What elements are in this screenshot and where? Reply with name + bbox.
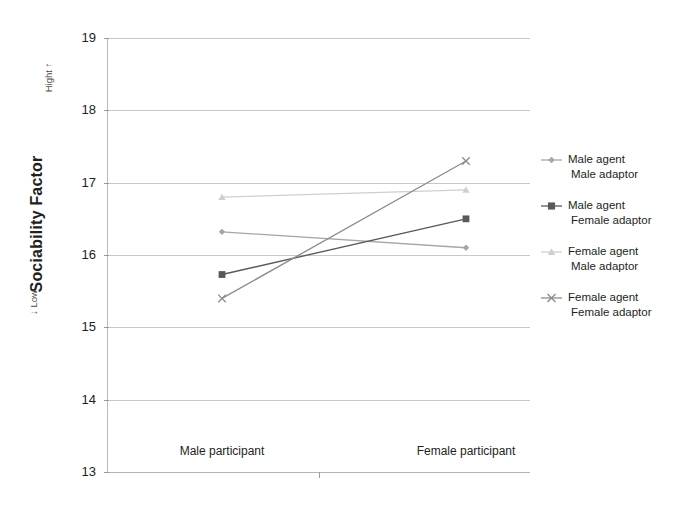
marker-square xyxy=(548,202,555,209)
series-line-3 xyxy=(222,161,466,298)
series-layer xyxy=(108,38,530,472)
legend-item-0[interactable]: Male agentMale adaptor xyxy=(540,152,688,181)
x-axis-label-male: Male participant xyxy=(152,444,292,458)
marker-diamond xyxy=(548,157,555,164)
y-axis-high-annotation: Hight ↑ xyxy=(43,43,54,113)
legend-item-2[interactable]: Female agentMale adaptor xyxy=(540,244,688,273)
series-line-2 xyxy=(222,190,466,197)
legend-marker-cross-icon xyxy=(540,292,566,304)
marker-square xyxy=(219,271,226,278)
legend-marker-diamond-icon xyxy=(540,154,566,166)
y-tick-13 xyxy=(104,472,109,473)
legend-marker-square-icon xyxy=(540,200,566,212)
x-axis-center-tick xyxy=(319,472,320,478)
legend-label-line2: Male adaptor xyxy=(568,167,688,182)
series-line-1 xyxy=(222,219,466,275)
legend-label-line2: Female adaptor xyxy=(568,213,688,228)
y-tick-label-19: 19 xyxy=(56,30,96,45)
legend-label-line1: Male agent xyxy=(568,198,688,213)
legend-item-3[interactable]: Female agentFemale adaptor xyxy=(540,290,688,319)
legend-label-line1: Female agent xyxy=(568,244,688,259)
plot-area xyxy=(108,38,530,472)
y-tick-label-15: 15 xyxy=(56,319,96,334)
y-tick-label-17: 17 xyxy=(56,175,96,190)
x-axis-label-female: Female participant xyxy=(396,444,536,458)
legend-item-1[interactable]: Male agentFemale adaptor xyxy=(540,198,688,227)
y-tick-label-16: 16 xyxy=(56,247,96,262)
y-tick-label-18: 18 xyxy=(56,102,96,117)
y-axis-low-annotation: ↓ Low xyxy=(28,268,39,338)
y-tick-label-13: 13 xyxy=(56,464,96,479)
legend-label-line1: Male agent xyxy=(568,152,688,167)
legend-label-line2: Male adaptor xyxy=(568,259,688,274)
legend-marker-triangle-icon xyxy=(540,246,566,258)
legend-label-line2: Female adaptor xyxy=(568,305,688,320)
marker-diamond xyxy=(219,229,225,235)
series-line-0 xyxy=(222,232,466,248)
chart-container: Sociability Factor Hight ↑ ↓ Low 1918171… xyxy=(0,0,692,532)
marker-diamond xyxy=(463,245,469,251)
y-tick-label-14: 14 xyxy=(56,392,96,407)
legend-label-line1: Female agent xyxy=(568,290,688,305)
chart-legend: Male agentMale adaptorMale agentFemale a… xyxy=(540,152,688,336)
marker-cross xyxy=(462,157,470,165)
marker-cross xyxy=(218,295,226,303)
marker-square xyxy=(463,215,470,222)
